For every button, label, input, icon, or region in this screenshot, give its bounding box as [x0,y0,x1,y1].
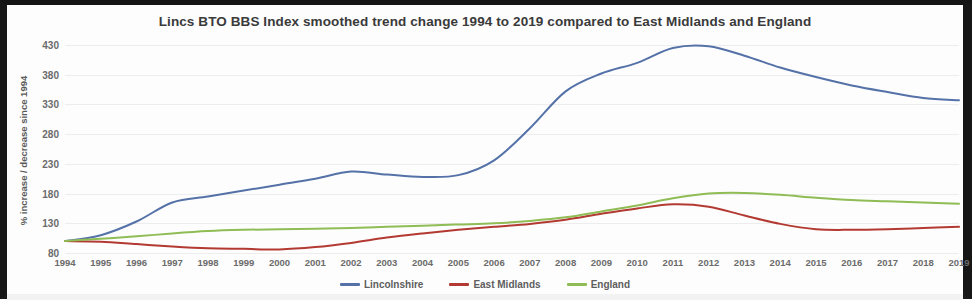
legend-label: Lincolnshire [364,279,423,290]
x-axis-tick-label: 2017 [877,257,898,268]
x-axis-tick-label: 2007 [519,257,540,268]
plot-area: 80130180230280330380430 [65,45,959,253]
series-line-east-midlands [65,204,959,249]
y-axis-tick-label: 180 [42,188,59,199]
x-axis-tick-label: 1994 [54,257,75,268]
series-lines [65,45,959,253]
x-axis-tick-label: 2006 [484,257,505,268]
legend-item-england[interactable]: England [567,279,630,290]
x-axis-tick-label: 2008 [555,257,576,268]
y-axis-tick-label: 280 [42,129,59,140]
x-axis-tick-label: 2013 [734,257,755,268]
legend-item-lincolnshire[interactable]: Lincolnshire [340,279,423,290]
y-axis-tick-label: 330 [42,99,59,110]
x-axis-tick-label: 2004 [412,257,433,268]
x-axis-tick-label: 2001 [305,257,326,268]
x-axis-tick-label: 2019 [948,257,969,268]
y-axis-tick-label: 130 [42,218,59,229]
y-axis-tick-label: 380 [42,69,59,80]
y-axis-tick-label: 230 [42,158,59,169]
series-line-lincolnshire [65,45,959,241]
x-axis-tick-label: 2012 [698,257,719,268]
x-axis-tick-label: 2002 [341,257,362,268]
x-axis-tick-label: 2014 [770,257,791,268]
x-axis-tick-label: 1999 [233,257,254,268]
legend-label: East Midlands [473,279,540,290]
x-axis-tick-label: 2016 [841,257,862,268]
y-axis-title: % increase / decrease since 1994 [18,51,29,251]
legend-label: England [591,279,630,290]
x-axis-tick-label: 1997 [162,257,183,268]
x-axis-tick-label: 1998 [197,257,218,268]
x-axis-tick-label: 2003 [376,257,397,268]
legend-swatch-icon [567,283,587,285]
chart-title: Lincs BTO BBS Index smoothed trend chang… [7,14,963,29]
bottom-strip [7,294,963,300]
x-axis-tick-labels: 1994199519961997199819992000200120022003… [65,257,959,273]
legend-item-east-midlands[interactable]: East Midlands [449,279,540,290]
chart-legend: LincolnshireEast MidlandsEngland [7,279,963,290]
x-axis-tick-label: 2011 [663,257,684,268]
x-axis-tick-label: 2000 [269,257,290,268]
y-axis-tick-label: 430 [42,40,59,51]
legend-swatch-icon [340,283,360,285]
x-axis-tick-label: 2009 [591,257,612,268]
x-axis-tick-label: 2018 [913,257,934,268]
gridline [65,253,959,254]
x-axis-tick-label: 1996 [126,257,147,268]
x-axis-tick-label: 1995 [90,257,111,268]
series-line-england [65,193,959,241]
legend-swatch-icon [449,283,469,285]
chart-canvas: Lincs BTO BBS Index smoothed trend chang… [7,5,963,294]
x-axis-tick-label: 2005 [448,257,469,268]
x-axis-tick-label: 2015 [805,257,826,268]
x-axis-tick-label: 2010 [627,257,648,268]
